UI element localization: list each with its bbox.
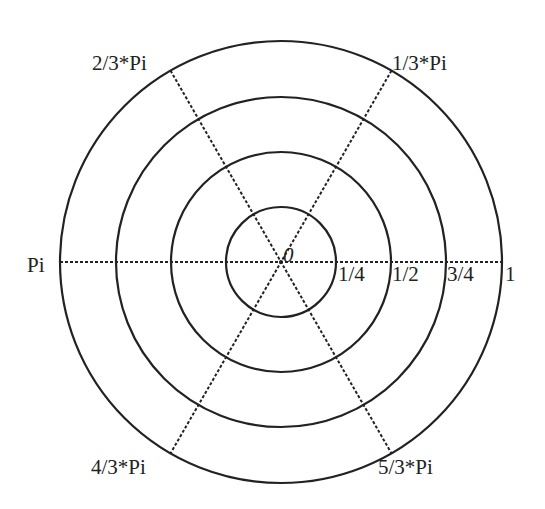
spoke-label-two-thirds-pi: 2/3*Pi [92, 51, 147, 75]
polar-grid-diagram: 0 1/4 1/2 3/4 1 1/3*Pi 2/3*Pi Pi 4/3*Pi … [0, 0, 545, 509]
origin-label: 0 [283, 243, 294, 267]
spoke-label-pi: Pi [27, 253, 45, 277]
label-group: 0 1/4 1/2 3/4 1 1/3*Pi 2/3*Pi Pi 4/3*Pi … [27, 51, 516, 479]
spoke-label-third-pi: 1/3*Pi [392, 51, 447, 75]
spoke-label-five-thirds-pi: 5/3*Pi [378, 455, 433, 479]
polar-grid-svg: 0 1/4 1/2 3/4 1 1/3*Pi 2/3*Pi Pi 4/3*Pi … [0, 0, 545, 509]
spoke-label-four-thirds-pi: 4/3*Pi [91, 455, 146, 479]
ring-label-three-quarter: 3/4 [447, 262, 474, 286]
ring-label-quarter: 1/4 [338, 262, 365, 286]
spoke-group [60, 71, 502, 454]
ring-label-one: 1 [505, 262, 516, 286]
ring-label-half: 1/2 [392, 262, 419, 286]
